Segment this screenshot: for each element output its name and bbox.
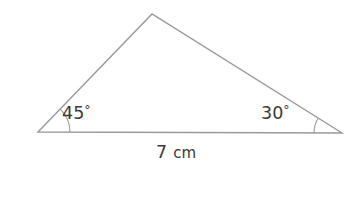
base-length-number: 7 — [156, 142, 167, 162]
base-length-unit: cm — [173, 144, 196, 162]
left-angle-degree-symbol: ° — [84, 102, 90, 117]
base-side-length-label: 7cm — [156, 142, 196, 162]
triangle-diagram: 45° 30° 7cm — [0, 0, 360, 200]
figure-background — [0, 0, 360, 200]
right-angle-degree-symbol: ° — [283, 102, 289, 117]
left-angle-value: 45 — [62, 103, 84, 123]
right-angle-value: 30 — [261, 103, 283, 123]
